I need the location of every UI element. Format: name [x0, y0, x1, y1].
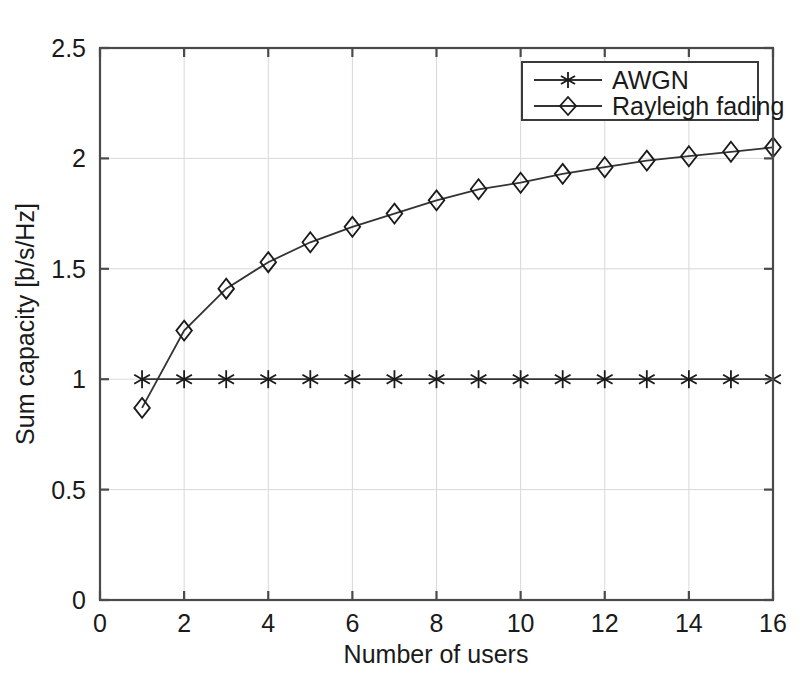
- series-awgn: [134, 370, 781, 388]
- x-tick-label: 16: [759, 609, 787, 637]
- x-tick-label: 0: [93, 609, 107, 637]
- data-series-group: [134, 137, 781, 418]
- x-axis-title: Number of users: [344, 640, 529, 668]
- x-tick-label: 10: [507, 609, 535, 637]
- x-tick-label: 2: [177, 609, 191, 637]
- legend-label-awgn: AWGN: [612, 66, 689, 94]
- y-tick-label: 0: [72, 586, 86, 614]
- series-line: [142, 147, 773, 408]
- y-tick-label: 0.5: [51, 476, 86, 504]
- y-tick-label: 1: [72, 365, 86, 393]
- legend-label-rayleigh: Rayleigh fading: [612, 92, 784, 120]
- legend: AWGN Rayleigh fading: [522, 62, 784, 120]
- x-tick-label: 4: [261, 609, 275, 637]
- y-tick-label: 1.5: [51, 255, 86, 283]
- figure-container: 0246810121416 00.511.522.5 Number of use…: [0, 0, 806, 691]
- x-axis-tick-labels: 0246810121416: [93, 609, 787, 637]
- x-tick-label: 6: [345, 609, 359, 637]
- y-axis-tick-labels: 00.511.522.5: [51, 34, 86, 614]
- chart-canvas: 0246810121416 00.511.522.5 Number of use…: [0, 0, 806, 691]
- x-tick-label: 12: [591, 609, 619, 637]
- y-axis-title: Sum capacity [b/s/Hz]: [11, 203, 39, 445]
- x-tick-label: 14: [675, 609, 703, 637]
- x-tick-label: 8: [430, 609, 444, 637]
- y-tick-label: 2.5: [51, 34, 86, 62]
- grid-lines: [100, 48, 773, 600]
- y-tick-label: 2: [72, 144, 86, 172]
